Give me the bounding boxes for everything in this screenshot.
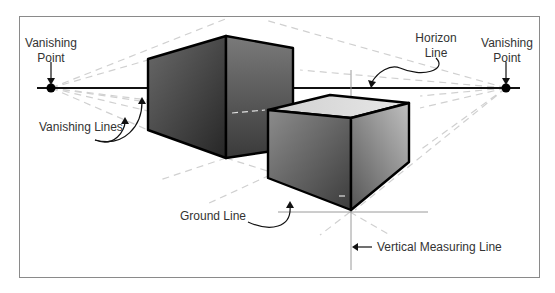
box-front	[268, 95, 409, 210]
label-vanishing-point-right: Vanishing Point	[474, 36, 540, 66]
label-vanishing-lines: Vanishing Lines	[39, 120, 123, 135]
label-vertical-measuring-line: Vertical Measuring Line	[377, 240, 502, 255]
label-vanishing-point-left: Vanishing Point	[18, 36, 84, 66]
label-horizon-line: Horizon Line	[408, 31, 464, 61]
label-ground-line: Ground Line	[180, 209, 246, 224]
